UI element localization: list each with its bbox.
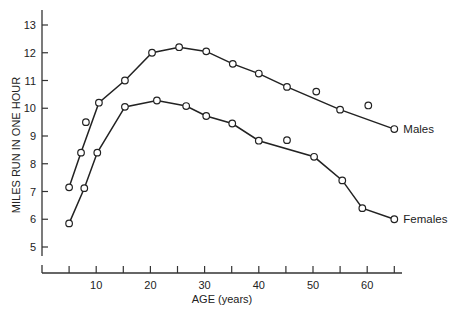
series-females: Females	[66, 97, 448, 227]
y-axis-title: MILES RUN IN ONE HOUR	[10, 77, 22, 213]
y-tick-label: 10	[24, 102, 36, 114]
y-tick-label: 5	[30, 241, 36, 253]
y-tick-label: 6	[30, 213, 36, 225]
data-point	[339, 177, 346, 184]
outlier-point	[284, 137, 291, 144]
data-point	[203, 48, 210, 55]
data-point	[391, 126, 398, 133]
y-tick-label: 11	[25, 75, 36, 87]
series-males: Males	[66, 44, 434, 191]
data-point	[176, 44, 183, 51]
data-point	[154, 97, 161, 104]
data-point	[255, 70, 262, 77]
series-line	[69, 101, 394, 224]
data-point	[183, 103, 190, 110]
data-point	[311, 154, 318, 161]
data-point	[96, 99, 103, 106]
y-tick-label: 9	[30, 130, 36, 142]
data-point	[391, 216, 398, 223]
y-axis-ticks: 5678910111213	[24, 19, 48, 253]
series-label-males: Males	[403, 123, 434, 135]
x-axis-ticks: 102030405060	[69, 266, 394, 291]
x-tick-label: 40	[253, 279, 265, 291]
data-point	[255, 137, 262, 144]
line-chart: 5678910111213 102030405060 MILES RUN IN …	[0, 0, 451, 312]
data-point	[122, 77, 129, 84]
y-tick-label: 12	[24, 47, 36, 59]
data-point	[81, 185, 88, 192]
data-point	[122, 104, 129, 111]
data-point	[66, 184, 73, 191]
y-tick-label: 13	[24, 19, 36, 31]
outlier-point	[83, 119, 90, 126]
x-tick-label: 50	[307, 279, 319, 291]
data-point	[78, 149, 85, 156]
data-point	[149, 49, 156, 56]
data-point	[66, 220, 73, 227]
y-tick-label: 7	[30, 186, 36, 198]
outlier-point	[365, 102, 372, 109]
data-point	[203, 113, 210, 120]
x-tick-label: 30	[198, 279, 210, 291]
series-layer: MalesFemales	[66, 44, 448, 227]
series-label-females: Females	[403, 213, 447, 225]
data-point	[229, 61, 236, 68]
data-point	[337, 106, 344, 113]
data-point	[284, 84, 291, 91]
x-tick-label: 10	[90, 279, 102, 291]
data-point	[359, 205, 366, 212]
x-axis-title: AGE (years)	[192, 293, 253, 305]
data-point	[94, 149, 101, 156]
data-point	[229, 120, 236, 127]
x-tick-label: 20	[144, 279, 156, 291]
outlier-point	[313, 88, 320, 95]
x-tick-label: 60	[361, 279, 373, 291]
y-tick-label: 8	[30, 158, 36, 170]
